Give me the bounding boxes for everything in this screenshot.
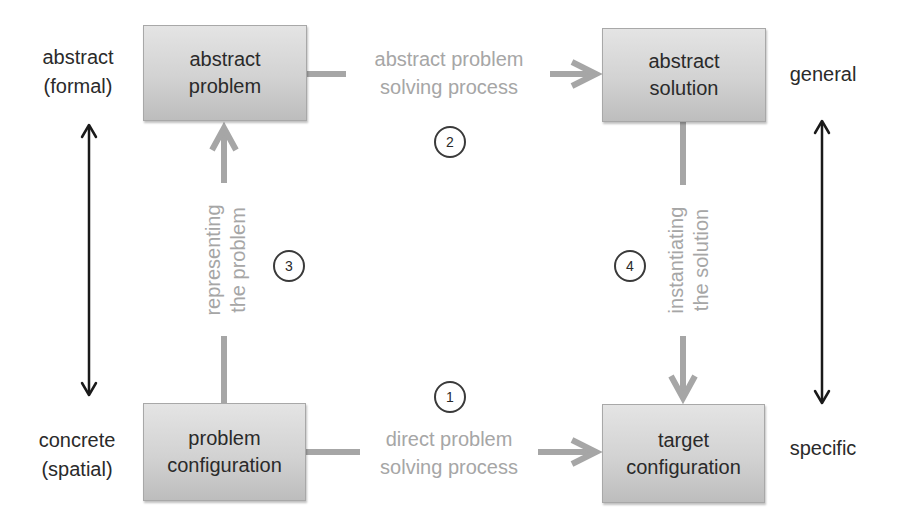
direct-process-label: direct problem solving process — [349, 425, 549, 481]
problem-configuration-node: problem configuration — [143, 403, 306, 501]
target-configuration-node: target configuration — [602, 404, 765, 503]
label-line: the problem — [226, 198, 251, 322]
label-line: representing — [201, 198, 226, 322]
general-label: general — [783, 60, 863, 89]
node-line: abstract — [189, 46, 260, 73]
abstract-solution-node: abstract solution — [602, 28, 766, 122]
node-line: target — [658, 427, 709, 454]
label-line: direct problem — [349, 425, 549, 453]
instantiating-label: instantiating the solution — [664, 198, 714, 322]
node-line: problem — [188, 425, 260, 452]
label-line: solving process — [349, 73, 549, 101]
representing-label: representing the problem — [201, 198, 251, 322]
label-line: solving process — [349, 453, 549, 481]
node-line: configuration — [626, 454, 741, 481]
label-line: abstract — [28, 43, 128, 72]
label-line: abstract problem — [349, 45, 549, 73]
step-badge-2: 2 — [434, 126, 466, 158]
label-line: concrete — [27, 426, 127, 455]
specific-label: specific — [783, 434, 863, 463]
concrete-spatial-label: concrete (spatial) — [27, 426, 127, 484]
node-line: problem — [189, 73, 261, 100]
abstract-formal-label: abstract (formal) — [28, 43, 128, 101]
abstract-problem-node: abstract problem — [143, 25, 307, 121]
label-line: (formal) — [28, 72, 128, 101]
step-badge-4: 4 — [614, 250, 646, 282]
label-line: instantiating — [664, 198, 689, 322]
step-badge-3: 3 — [273, 250, 305, 282]
node-line: abstract — [648, 48, 719, 75]
node-line: configuration — [167, 452, 282, 479]
step-badge-1: 1 — [434, 381, 466, 413]
node-line: solution — [650, 75, 719, 102]
label-line: (spatial) — [27, 455, 127, 484]
label-line: the solution — [689, 198, 714, 322]
abstract-process-label: abstract problem solving process — [349, 45, 549, 101]
